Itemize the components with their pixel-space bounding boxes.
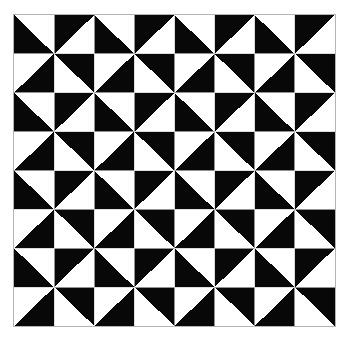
page-canvas xyxy=(0,0,344,340)
quilt-frame xyxy=(13,14,336,327)
quilt-pattern-svg xyxy=(14,15,335,326)
